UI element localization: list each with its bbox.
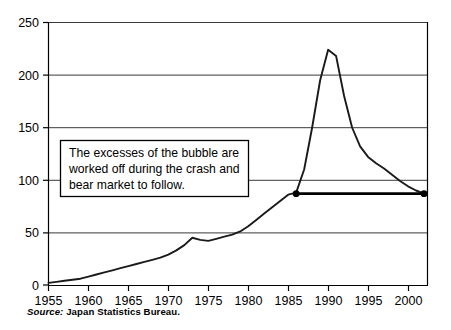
level-line-start-marker: [293, 190, 300, 197]
callout-line-3: bear market to follow.: [69, 178, 185, 192]
y-tick-labels: 250 200 150 100 50 0: [18, 16, 39, 293]
y-tick-marks: [43, 23, 48, 286]
x-tick-label: 1980: [235, 294, 263, 308]
callout-line-1: The excesses of the bubble are: [69, 146, 239, 160]
x-tick-label: 1985: [275, 294, 303, 308]
callout-line-2: worked off during the crash and: [68, 162, 240, 176]
y-tick-label: 200: [18, 69, 39, 83]
y-tick-label: 100: [18, 174, 39, 188]
source-note: Source: Japan Statistics Bureau.: [27, 306, 180, 317]
level-line-end-marker: [421, 190, 428, 197]
x-tick-label: 1995: [355, 294, 383, 308]
y-tick-label: 0: [32, 279, 39, 293]
source-text: Japan Statistics Bureau.: [66, 306, 180, 317]
chart-canvas: 250 200 150 100 50 0 1955 1960 1965 1970…: [0, 0, 451, 330]
y-tick-label: 250: [18, 16, 39, 30]
y-tick-label: 50: [25, 226, 39, 240]
x-tick-label: 2000: [395, 294, 423, 308]
chart-figure: 250 200 150 100 50 0 1955 1960 1965 1970…: [0, 0, 451, 330]
x-tick-label: 1990: [315, 294, 343, 308]
x-tick-marks: [49, 286, 409, 292]
y-tick-label: 150: [18, 121, 39, 135]
source-label: Source:: [27, 306, 63, 317]
x-tick-label: 1975: [195, 294, 223, 308]
